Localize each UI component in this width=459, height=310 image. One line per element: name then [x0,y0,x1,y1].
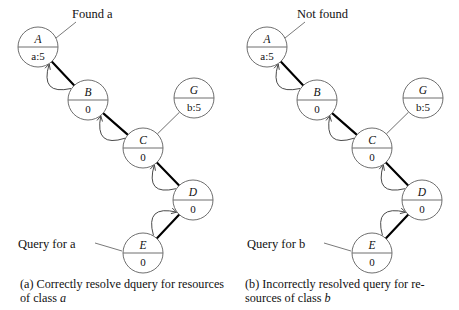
panel-a: Aa:5B0C0D0E0Gb:5 Found a Query for a (a)… [0,0,229,310]
node-D[interactable]: D0 [173,180,213,220]
annotation-found-a: Found a [72,8,113,22]
node-E[interactable]: E0 [123,233,163,273]
node-value-G: b:5 [187,101,202,113]
node-label-E: E [138,239,146,251]
node-label-E: E [367,239,375,251]
annotation-not-found: Not found [297,8,348,22]
node-label-B: B [313,86,320,98]
node-G[interactable]: Gb:5 [403,78,443,118]
annotation-query-a: Query for a [18,238,76,252]
edge-thick-B-A [52,62,75,86]
leader-line-top [56,22,76,38]
node-E[interactable]: E0 [352,233,392,273]
edge-thick-C-B [332,113,357,135]
edge-G-C [157,112,179,134]
node-label-C: C [368,134,376,146]
node-value-A: a:5 [31,50,45,62]
edge-thick-D-C [157,162,179,185]
edge-thick-E-D [386,215,409,239]
edge-thick-C-B [103,113,128,135]
caption-b-italic: b [325,291,331,305]
panel-b: Aa:5B0C0D0E0Gb:5 Not found Query for b (… [229,0,458,310]
figure-root: Aa:5B0C0D0E0Gb:5 Found a Query for a (a)… [0,0,459,310]
node-C[interactable]: C0 [123,128,163,168]
node-B[interactable]: B0 [297,80,337,120]
edge-thick-D-C [386,162,408,185]
caption-a-text: (a) Correctly resolve dquery for resourc… [20,277,224,305]
node-A[interactable]: Aa:5 [18,27,58,67]
node-value-E: 0 [140,256,146,268]
caption-b-text: (b) Incorrectly resolved query for re-so… [245,277,425,305]
node-value-G: b:5 [416,101,431,113]
node-value-C: 0 [140,151,146,163]
edge-G-C [386,112,408,134]
node-label-B: B [84,86,91,98]
caption-b: (b) Incorrectly resolved query for re-so… [245,277,457,306]
edge-thick-E-D [157,215,180,239]
node-value-B: 0 [85,103,91,115]
node-B[interactable]: B0 [68,80,108,120]
leader-line-query [95,243,122,251]
node-G[interactable]: Gb:5 [174,78,214,118]
node-value-B: 0 [314,103,320,115]
leader-line-query [324,243,351,251]
node-label-C: C [139,134,147,146]
node-label-G: G [190,84,199,96]
node-value-A: a:5 [260,50,274,62]
node-D[interactable]: D0 [402,180,442,220]
node-value-E: 0 [369,256,375,268]
node-label-D: D [417,186,427,198]
caption-a-italic: a [60,291,66,305]
annotation-query-b: Query for b [247,238,305,252]
edge-thick-B-A [281,62,304,86]
node-value-D: 0 [190,203,196,215]
node-label-A: A [262,33,271,45]
leader-line-top [285,22,305,38]
node-label-D: D [188,186,198,198]
node-value-C: 0 [369,151,375,163]
caption-a: (a) Correctly resolve dquery for resourc… [20,277,225,306]
node-label-G: G [419,84,428,96]
node-label-A: A [33,33,42,45]
node-A[interactable]: Aa:5 [247,27,287,67]
node-C[interactable]: C0 [352,128,392,168]
node-value-D: 0 [419,203,425,215]
